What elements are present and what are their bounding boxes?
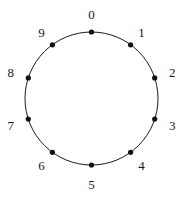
circle-diagram: 0123456789 xyxy=(0,0,182,202)
vertex-label-1: 1 xyxy=(138,25,145,38)
vertex-point xyxy=(26,75,31,80)
vertex-label-6: 6 xyxy=(38,159,45,172)
vertex-label-8: 8 xyxy=(7,66,14,79)
diagram-canvas xyxy=(0,0,182,202)
vertex-point xyxy=(26,117,31,122)
vertex-point xyxy=(152,75,157,80)
vertex-label-3: 3 xyxy=(169,118,176,131)
vertex-point xyxy=(128,42,133,47)
vertex-point xyxy=(50,150,55,155)
vertex-label-4: 4 xyxy=(138,159,145,172)
vertex-point xyxy=(50,42,55,47)
vertex-label-7: 7 xyxy=(7,118,14,131)
circle-outline xyxy=(25,32,158,165)
vertex-label-0: 0 xyxy=(88,7,95,20)
vertex-point xyxy=(128,150,133,155)
vertex-label-5: 5 xyxy=(88,177,95,190)
vertex-label-2: 2 xyxy=(169,66,176,79)
vertex-point xyxy=(89,29,94,34)
vertex-point xyxy=(89,162,94,167)
vertex-label-9: 9 xyxy=(38,25,45,38)
vertex-point xyxy=(152,117,157,122)
